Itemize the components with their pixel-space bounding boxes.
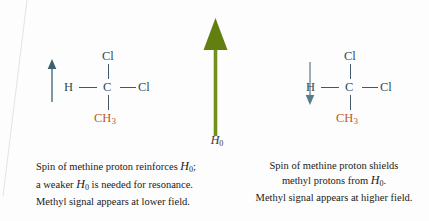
caption-right-line-2: methyl protons from H0. [243,173,425,191]
molecule-left: Cl H C Cl CH3 [58,50,178,130]
atom-label-cl-top: Cl [102,50,114,63]
caption-right-line-2-post: . [384,175,387,186]
caption-right: Spin of methine proton shields methyl pr… [243,159,425,206]
page-edge-rule [0,0,40,200]
atom-label-h: H [64,81,73,94]
field-label-subscript: 0 [219,139,223,148]
caption-right-line-3: Methyl signal appears at higher field. [243,191,425,205]
atom-label-ch3: CH3 [94,112,116,126]
bond-horizontal-right [362,87,378,88]
ch3-base: CH [94,111,111,125]
spin-arrow-up-icon [45,58,59,104]
caption-left-line-2-pre: a weaker [36,179,76,190]
caption-right-line-2-pre: methyl protons from [282,175,371,186]
bond-horizontal-left [79,87,97,88]
caption-right-line-1: Spin of methine proton shields [243,159,425,173]
bond-vertical-bottom [350,95,351,110]
ch3-base: CH [336,111,353,125]
caption-left-line-2: a weaker H0 is needed for resonance. [36,177,216,195]
bond-horizontal-left [321,87,339,88]
caption-left-line-1-symbol: H [180,159,189,173]
ch3-subscript: 3 [353,116,358,126]
bond-vertical-top [108,64,109,79]
caption-left: Spin of methine proton reinforces H0; a … [36,159,216,210]
caption-left-line-1-post: ; [193,161,196,172]
atom-label-ch3: CH3 [336,112,358,126]
caption-right-line-2-symbol: H [371,173,380,187]
caption-left-line-1: Spin of methine proton reinforces H0; [36,159,216,177]
bond-vertical-bottom [108,95,109,110]
atom-label-cl-right: Cl [138,81,150,94]
atom-label-cl-top: Cl [344,50,356,63]
field-arrow-up-icon [198,16,234,138]
nmr-spin-coupling-figure: Cl H C Cl CH3 Spin of methine proton rei… [0,0,429,221]
bond-vertical-top [350,64,351,79]
atom-label-h: H [306,81,315,94]
caption-left-line-2-symbol: H [76,177,85,191]
field-label-h0: H0 [196,133,238,148]
atom-label-cl-right: Cl [380,81,392,94]
molecule-right: Cl H C Cl CH3 [300,50,420,130]
caption-left-line-3: Methyl signal appears at lower field. [36,195,216,209]
caption-left-line-2-post: is needed for resonance. [89,179,193,190]
caption-left-line-1-pre: Spin of methine proton reinforces [36,161,180,172]
ch3-subscript: 3 [111,116,116,126]
bond-horizontal-right [120,87,136,88]
atom-label-c: C [103,81,111,94]
atom-label-c: C [345,81,353,94]
